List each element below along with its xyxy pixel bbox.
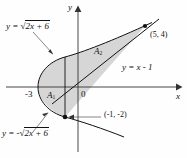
x-axis-arrow [176, 84, 183, 91]
y-axis-label: y [68, 2, 72, 12]
radical-sign-lower: √ [20, 128, 25, 138]
math-figure: y = √2x + 6 y = -√2x + 6 y = x - 1 (5, 4… [0, 0, 187, 158]
lower-branch-radicand: 2x + 6 [24, 127, 49, 138]
lower-branch-label: y = -√2x + 6 [2, 127, 49, 138]
origin-label: 0 [81, 89, 86, 99]
point-neg1-neg2 [63, 115, 68, 120]
region-a2-subscript: 2 [100, 50, 103, 56]
radical-sign: √ [21, 21, 26, 31]
upper-branch-prefix: y = [6, 21, 21, 31]
x-axis-label: x [176, 91, 180, 101]
region-label-a2: A2 [94, 46, 102, 56]
upper-branch-label: y = √2x + 6 [6, 20, 50, 31]
region-a1-subscript: 1 [53, 94, 56, 100]
region-label-a1: A1 [47, 90, 55, 100]
point-5-4 [143, 24, 147, 28]
upper-branch-radicand: 2x + 6 [25, 20, 50, 31]
line-label: y = x - 1 [122, 62, 153, 72]
point-label-5-4: (5, 4) [150, 30, 167, 39]
x-tick-label-neg3: -3 [25, 89, 33, 99]
y-axis-arrow [75, 6, 82, 13]
point-label-neg1-neg2: (-1, -2) [104, 110, 127, 119]
lower-branch-prefix: y = - [2, 128, 20, 138]
